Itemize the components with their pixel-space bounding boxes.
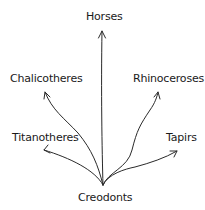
label-horses: Horses bbox=[86, 10, 123, 23]
branch-horses bbox=[102, 31, 103, 185]
branch-tapirs bbox=[103, 151, 177, 185]
label-rhinoceroses: Rhinoceroses bbox=[133, 72, 204, 85]
label-chalicotheres: Chalicotheres bbox=[10, 72, 83, 85]
branch-titanotheres bbox=[44, 150, 103, 185]
branch-rhinoceroses bbox=[103, 92, 158, 185]
label-tapirs: Tapirs bbox=[166, 131, 197, 144]
label-creodonts: Creodonts bbox=[78, 191, 132, 204]
label-titanotheres: Titanotheres bbox=[12, 131, 79, 144]
tree-diagram bbox=[0, 0, 205, 210]
